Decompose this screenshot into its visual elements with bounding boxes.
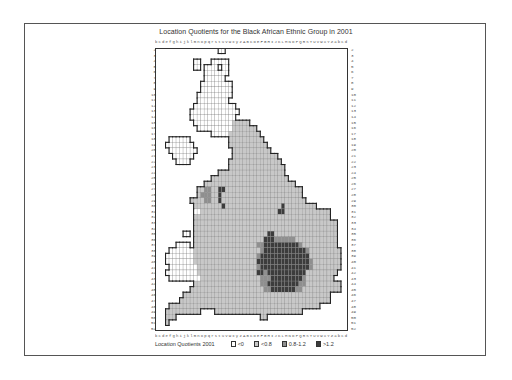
column-label: l [190,334,192,338]
row-label: 23 [351,165,361,169]
column-label: W [320,40,322,44]
row-label: 18 [351,137,361,141]
row-label: 34 [351,227,361,231]
legend-swatch-dark [316,341,321,347]
column-label: u [222,334,224,338]
row-label: 33 [351,221,361,225]
legend-swatch-medium [282,341,287,347]
column-label: s [215,334,217,338]
column-label: f [169,334,171,338]
column-label: i [180,334,182,338]
column-label: C [250,40,252,44]
row-label: 13 [351,109,361,113]
row-labels-right: 2345678910111213141516171819202122232425… [351,48,361,331]
row-label: 3 [351,54,361,58]
column-label: k [187,40,189,44]
column-label: i [180,40,182,44]
column-label: M [285,334,287,338]
column-label: d [345,40,347,44]
row-label: 10 [351,93,361,97]
column-label: j [183,334,185,338]
column-label: B [246,334,248,338]
row-label: 32 [351,215,361,219]
legend-item-08-12: 0.8-1.2 [282,341,306,347]
column-label: e [166,40,168,44]
row-label: 28 [351,193,361,197]
column-label: M [285,40,287,44]
row-label: 43 [351,277,361,281]
column-label: u [222,40,224,44]
column-label: p [204,40,206,44]
row-label: 21 [351,154,361,158]
column-label: v [225,40,227,44]
column-label: w [229,334,231,338]
legend: Location Quotients 2001 <0 <0.8 0.8-1.2 … [155,341,344,347]
column-label: P [296,40,298,44]
row-label: 7 [351,76,361,80]
column-label: V [317,334,319,338]
column-label: c [341,40,343,44]
row-label: 41 [351,266,361,270]
column-label: H [268,334,270,338]
column-label: V [317,40,319,44]
column-label: g [173,40,175,44]
column-label: l [190,40,192,44]
column-label: Y [327,334,329,338]
column-label: E [257,334,259,338]
column-label: X [324,334,326,338]
column-label: Q [299,40,301,44]
row-label: 51 [351,321,361,325]
row-label: 27 [351,187,361,191]
row-label: 47 [351,299,361,303]
column-label: p [204,334,206,338]
column-label: R [303,334,305,338]
row-label: 5 [351,65,361,69]
column-label: q [208,40,210,44]
row-label: 15 [351,121,361,125]
column-label: o [201,334,203,338]
map-border [155,48,348,331]
column-label: G [264,334,266,338]
row-label: 38 [351,249,361,253]
column-label: U [313,40,315,44]
column-label: D [253,40,255,44]
column-label: t [218,334,220,338]
column-label: W [320,334,322,338]
column-label: m [194,40,196,44]
row-label: 11 [351,98,361,102]
column-label: y [236,40,238,44]
row-label: 31 [351,210,361,214]
column-label: b [155,334,157,338]
column-label: C [250,334,252,338]
column-label: d [345,334,347,338]
column-label: A [243,334,245,338]
column-label: N [289,40,291,44]
row-label: 45 [351,288,361,292]
column-label: Y [327,40,329,44]
column-label: o [201,40,203,44]
row-label: 4 [351,59,361,63]
column-label: J [275,334,277,338]
column-label: x [232,40,234,44]
row-label: 22 [351,160,361,164]
column-label: P [296,334,298,338]
row-label: 9 [351,87,361,91]
column-label: A [243,40,245,44]
column-label: c [159,40,161,44]
column-label: O [292,334,294,338]
column-label: q [208,334,210,338]
column-label: L [282,40,284,44]
legend-swatch-white [231,341,236,347]
row-label: 26 [351,182,361,186]
row-label: 37 [351,243,361,247]
row-label: 17 [351,132,361,136]
row-label: 20 [351,148,361,152]
column-label: e [166,334,168,338]
column-label: c [159,334,161,338]
column-label: t [218,40,220,44]
column-label: B [246,40,248,44]
column-label: b [155,40,157,44]
column-label: D [253,334,255,338]
column-label: w [229,40,231,44]
column-label: H [268,40,270,44]
